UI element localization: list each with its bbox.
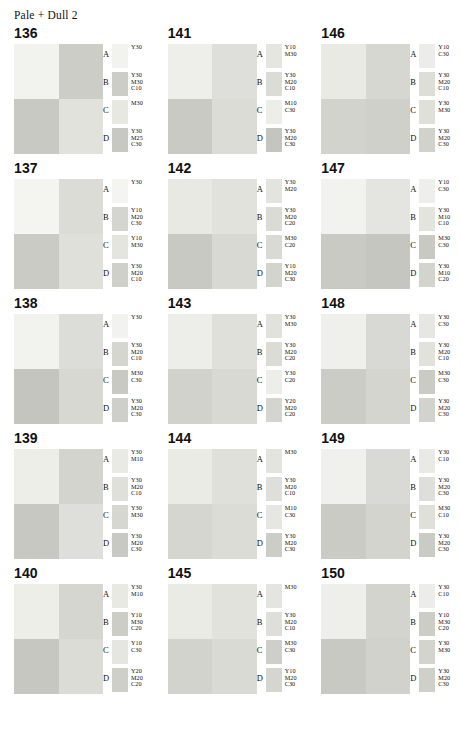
reference-chip-label: B — [257, 617, 263, 627]
reference-chip-label: B — [103, 617, 109, 627]
swatch-group: 146AY10 C30BY30 M20 C10CY30 M30DY30 M20 … — [307, 26, 461, 161]
quadrant-tile — [366, 234, 411, 289]
reference-chip-color — [419, 449, 435, 473]
reference-chip-label: B — [410, 77, 416, 87]
reference-chip-row: CY10 C30 — [103, 640, 148, 664]
color-quadrant-block — [168, 449, 257, 559]
reference-chip-label: C — [257, 240, 263, 250]
swatch-group-number: 142 — [168, 161, 308, 176]
reference-chip-label: C — [257, 105, 263, 115]
reference-chip-row: BY10 M30 C20 — [103, 612, 148, 636]
reference-chip-row: DY10 M20 C30 — [257, 668, 302, 692]
reference-chip-column: AY30BY30 M30 C10CM30DY30 M25 C30 — [103, 44, 148, 154]
ink-spec-text: Y30 M20 C30 — [438, 668, 450, 688]
ink-spec-text: Y30 M30 — [438, 640, 450, 653]
reference-chip-color — [419, 128, 435, 152]
color-quadrant-block — [168, 179, 257, 289]
reference-chip-color — [419, 533, 435, 557]
reference-chip-color — [419, 100, 435, 124]
quadrant-tile — [212, 639, 257, 694]
reference-chip-row: BY30 M20 C10 — [103, 342, 148, 366]
reference-chip-row: AY10 C30 — [410, 179, 455, 203]
ink-spec-text: Y30 M10 C20 — [438, 263, 450, 283]
reference-chip-label: A — [257, 49, 263, 59]
ink-spec-text: Y30 M20 C10 — [438, 342, 450, 362]
reference-chip-row: BY30 M20 C10 — [103, 477, 148, 501]
swatch-group-number: 148 — [321, 296, 461, 311]
swatch-group-body: AY30 C10BY30 M20 C30CM30 C10DY30 M20 C30 — [321, 449, 455, 559]
reference-chip-label: B — [410, 617, 416, 627]
reference-chip-color — [112, 342, 128, 366]
swatch-group-number: 150 — [321, 566, 461, 581]
color-quadrant-block — [14, 44, 103, 154]
reference-chip-color — [112, 179, 128, 203]
reference-chip-label: C — [103, 645, 109, 655]
reference-chip-label: B — [410, 347, 416, 357]
quadrant-tile — [366, 504, 411, 559]
color-quadrant-block — [168, 584, 257, 694]
quadrant-tile — [321, 99, 366, 154]
ink-spec-text: Y10 M20 C30 — [285, 668, 297, 688]
quadrant-tile — [212, 234, 257, 289]
color-quadrant-block — [14, 584, 103, 694]
ink-spec-text: Y30 M25 C30 — [131, 128, 143, 148]
quadrant-tile — [321, 179, 366, 234]
reference-chip-color — [266, 263, 282, 287]
reference-chip-color — [419, 584, 435, 608]
quadrant-tile — [59, 584, 104, 639]
quadrant-tile — [168, 99, 213, 154]
reference-chip-color — [266, 44, 282, 68]
reference-chip-label: D — [257, 538, 263, 548]
reference-chip-row: CM30 C10 — [410, 505, 455, 529]
reference-chip-column: AY10 C30BY30 M20 C10CY30 M30DY30 M20 C30 — [410, 44, 455, 154]
reference-chip-row: CY30 C20 — [257, 370, 302, 394]
swatch-group-body: AY10 M30BY30 M20 C10CM10 C30DY30 M20 C30 — [168, 44, 302, 154]
quadrant-tile — [14, 449, 59, 504]
ink-spec-text: Y20 M20 C20 — [131, 668, 143, 688]
swatch-group: 145AM30BY30 M20 C10CM30 C30DY10 M20 C30 — [154, 566, 308, 701]
ink-spec-text: Y30 M20 C30 — [285, 128, 297, 148]
reference-chip-row: DY30 M20 C30 — [257, 128, 302, 152]
swatch-group: 136AY30BY30 M30 C10CM30DY30 M25 C30 — [0, 26, 154, 161]
reference-chip-row: BY30 M20 C10 — [410, 342, 455, 366]
reference-chip-color — [266, 640, 282, 664]
ink-spec-text: Y30 M10 — [131, 449, 143, 462]
quadrant-tile — [14, 504, 59, 559]
reference-chip-label: B — [257, 347, 263, 357]
reference-chip-row: BY30 M20 C20 — [257, 207, 302, 231]
reference-chip-color — [419, 370, 435, 394]
swatch-group: 149AY30 C10BY30 M20 C30CM30 C10DY30 M20 … — [307, 431, 461, 566]
swatch-group-number: 146 — [321, 26, 461, 41]
swatch-group-number: 145 — [168, 566, 308, 581]
quadrant-tile — [59, 369, 104, 424]
quadrant-tile — [59, 234, 104, 289]
reference-chip-color — [266, 477, 282, 501]
reference-chip-label: D — [103, 673, 109, 683]
quadrant-tile — [212, 44, 257, 99]
swatch-group-body: AY30 C10BY10 M30 C20CY30 M30DY30 M20 C30 — [321, 584, 455, 694]
reference-chip-row: AY30 M10 — [103, 584, 148, 608]
ink-spec-text: Y10 C30 — [131, 640, 142, 653]
ink-spec-text: Y30 M20 C30 — [438, 398, 450, 418]
ink-spec-text: M10 C30 — [285, 100, 297, 113]
ink-spec-text: Y30 M20 C10 — [131, 342, 143, 362]
quadrant-tile — [212, 99, 257, 154]
reference-chip-row: AY30 — [103, 179, 148, 203]
reference-chip-label: A — [410, 454, 416, 464]
reference-chip-label: D — [257, 673, 263, 683]
color-quadrant-block — [14, 449, 103, 559]
reference-chip-color — [419, 668, 435, 692]
ink-spec-text: Y30 M20 C30 — [438, 128, 450, 148]
reference-chip-label: B — [103, 77, 109, 87]
reference-chip-row: BY30 M20 C20 — [257, 342, 302, 366]
reference-chip-row: DY30 M20 C30 — [410, 668, 455, 692]
color-quadrant-block — [321, 44, 410, 154]
reference-chip-row: CM30 C30 — [410, 370, 455, 394]
swatch-group: 138AY30BY30 M20 C10CM30 C30DY30 M20 C30 — [0, 296, 154, 431]
reference-chip-row: DY30 M10 C20 — [410, 263, 455, 287]
color-quadrant-block — [321, 449, 410, 559]
swatch-group-body: AY30BY30 M20 C10CM30 C30DY30 M20 C30 — [14, 314, 148, 424]
reference-chip-label: A — [103, 454, 109, 464]
quadrant-tile — [14, 234, 59, 289]
reference-chip-row: DY20 M20 C20 — [257, 398, 302, 422]
